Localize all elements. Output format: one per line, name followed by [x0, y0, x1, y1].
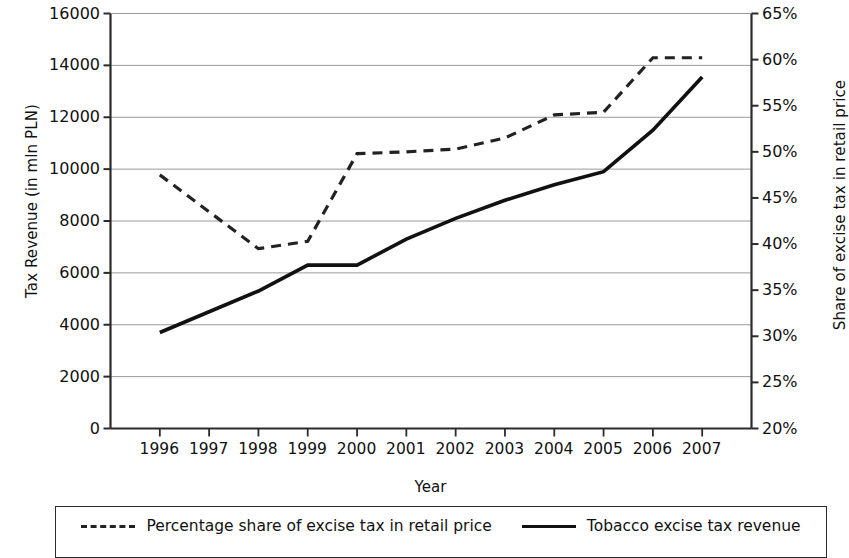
legend-item[interactable]: Tobacco excise tax revenue [522, 517, 801, 535]
gridlines [111, 14, 752, 377]
legend-item[interactable]: Percentage share of excise tax in retail… [81, 517, 491, 535]
dashed-line-swatch-icon [81, 525, 135, 528]
legend-label: Tobacco excise tax revenue [587, 517, 801, 535]
legend-label: Percentage share of excise tax in retail… [146, 517, 491, 535]
tick-marks [104, 14, 759, 437]
data-series [160, 58, 702, 333]
solid-line-swatch-icon [522, 525, 576, 528]
series-line-percentage-share [160, 58, 702, 249]
legend: Percentage share of excise tax in retail… [55, 506, 827, 558]
series-line-tax-revenue [160, 77, 702, 332]
legend-items: Percentage share of excise tax in retail… [56, 507, 826, 545]
